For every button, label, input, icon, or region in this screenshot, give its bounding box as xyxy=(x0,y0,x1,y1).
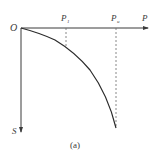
y-axis-label: S xyxy=(12,126,17,136)
x-axis-label: P xyxy=(141,13,148,23)
pu-label: P xyxy=(110,13,117,23)
pu-subscript: u xyxy=(117,19,120,24)
figure-caption: (a) xyxy=(70,140,80,150)
p-s-curve-diagram: O P S P 1 P u (a) xyxy=(0,0,159,158)
p1-label: P xyxy=(60,13,67,23)
p1-subscript: 1 xyxy=(67,19,70,24)
origin-label: O xyxy=(10,22,17,33)
load-settlement-curve xyxy=(21,28,116,128)
